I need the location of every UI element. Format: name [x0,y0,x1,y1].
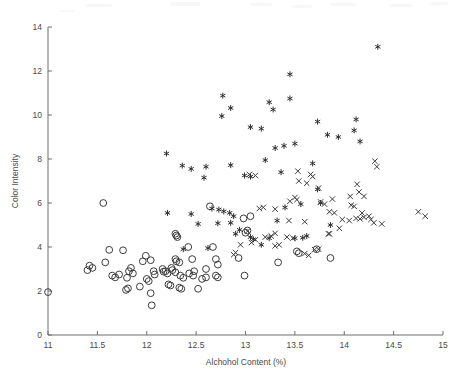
y-tick-label: 10 [33,110,43,120]
x-tick-label: 13.5 [287,340,304,350]
paper-speck [250,3,272,6]
x-tick-label: 14.5 [385,340,402,350]
x-tick-label: 12.5 [188,340,205,350]
y-tick-label: 6 [37,198,42,208]
y-axis-title: Color Intensity [10,153,20,208]
plot-background [0,0,473,380]
x-tick-label: 14 [340,340,350,350]
paper-speck [330,3,356,6]
x-tick-label: 12 [142,340,152,350]
y-tick-label: 4 [37,242,42,252]
x-axis-title: Alchohol Content (%) [206,357,286,367]
paper-speck [86,4,112,7]
scatter-plot: 1111.51212.51313.51414.515 02468101214 A… [0,0,473,380]
chart-canvas: 1111.51212.51313.51414.515 02468101214 A… [0,0,473,380]
paper-speck [292,5,312,8]
y-tick-label: 14 [33,22,43,32]
paper-speck [60,10,74,12]
y-tick-label: 8 [37,154,42,164]
figure-container: 1111.51212.51313.51414.515 02468101214 A… [0,0,473,380]
paper-speck [170,2,200,6]
y-tick-label: 12 [33,66,43,76]
y-tick-label: 0 [37,330,42,340]
paper-speck [430,2,448,5]
x-tick-label: 13 [241,340,251,350]
paper-speck [390,4,412,7]
x-tick-label: 15 [438,340,448,350]
x-tick-label: 11 [44,340,53,350]
y-tick-label: 2 [37,286,42,296]
x-tick-label: 11.5 [89,340,105,350]
